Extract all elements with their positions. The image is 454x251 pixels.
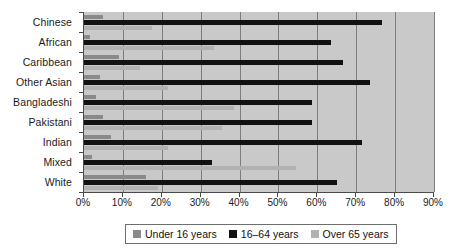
bar-group	[84, 52, 434, 72]
legend-label: Over 65 years	[323, 228, 389, 240]
bar	[84, 126, 222, 130]
legend-item: Over 65 years	[311, 228, 389, 240]
legend-swatch-icon	[229, 230, 237, 238]
category-label: Chinese	[0, 12, 78, 32]
chart-legend: Under 16 years16–64 yearsOver 65 years	[125, 224, 397, 244]
bar	[84, 86, 168, 90]
value-tick-label: 20%	[151, 197, 171, 208]
legend-label: Under 16 years	[145, 228, 217, 240]
bar	[84, 180, 337, 185]
legend-swatch-icon	[133, 230, 141, 238]
bar	[84, 120, 312, 125]
value-tick-label: 80%	[384, 197, 404, 208]
category-label: Other Asian	[0, 72, 78, 92]
bar	[84, 186, 158, 190]
value-axis-labels: 0%10%20%30%40%50%60%70%80%90%	[83, 197, 433, 211]
bar	[84, 146, 168, 150]
bar	[84, 140, 362, 145]
bar	[84, 80, 370, 85]
bar	[84, 135, 111, 139]
legend-item: Under 16 years	[133, 228, 217, 240]
bar	[84, 35, 90, 39]
bar	[84, 166, 296, 170]
bar	[84, 106, 234, 110]
bar	[84, 75, 100, 79]
category-label: Indian	[0, 132, 78, 152]
bar-groups	[84, 12, 434, 192]
value-tick-label: 50%	[267, 197, 287, 208]
value-tick-label: 10%	[112, 197, 132, 208]
bar	[84, 160, 212, 165]
bar-group	[84, 12, 434, 32]
bar	[84, 15, 103, 19]
bar	[84, 95, 96, 99]
legend-label: 16–64 years	[241, 228, 299, 240]
plot-area	[83, 12, 434, 193]
bar-group	[84, 112, 434, 132]
value-tick-label: 0%	[76, 197, 90, 208]
category-axis-labels: ChineseAfricanCaribbeanOther AsianBangla…	[0, 12, 78, 192]
category-label: White	[0, 172, 78, 192]
value-tick-label: 40%	[229, 197, 249, 208]
bar-group	[84, 92, 434, 112]
bar	[84, 175, 146, 179]
category-label: Bangladeshi	[0, 92, 78, 112]
bar	[84, 55, 119, 59]
value-tick-label: 90%	[423, 197, 443, 208]
legend-swatch-icon	[311, 230, 319, 238]
bar-chart: ChineseAfricanCaribbeanOther AsianBangla…	[0, 0, 454, 251]
category-label: Pakistani	[0, 112, 78, 132]
bar-group	[84, 152, 434, 172]
bar	[84, 46, 214, 50]
legend-item: 16–64 years	[229, 228, 299, 240]
bar	[84, 26, 152, 30]
bar	[84, 60, 343, 65]
bar-group	[84, 72, 434, 92]
bar-group	[84, 132, 434, 152]
value-tick-label: 70%	[345, 197, 365, 208]
category-label: Mixed	[0, 152, 78, 172]
bar	[84, 20, 382, 25]
bar	[84, 155, 92, 159]
bar-group	[84, 32, 434, 52]
bar	[84, 100, 312, 105]
gridline	[434, 12, 435, 192]
value-tick-label: 30%	[190, 197, 210, 208]
bar	[84, 115, 103, 119]
bar	[84, 40, 331, 45]
bar	[84, 66, 140, 70]
value-tick-label: 60%	[306, 197, 326, 208]
bar-group	[84, 172, 434, 192]
category-label: Caribbean	[0, 52, 78, 72]
category-label: African	[0, 32, 78, 52]
